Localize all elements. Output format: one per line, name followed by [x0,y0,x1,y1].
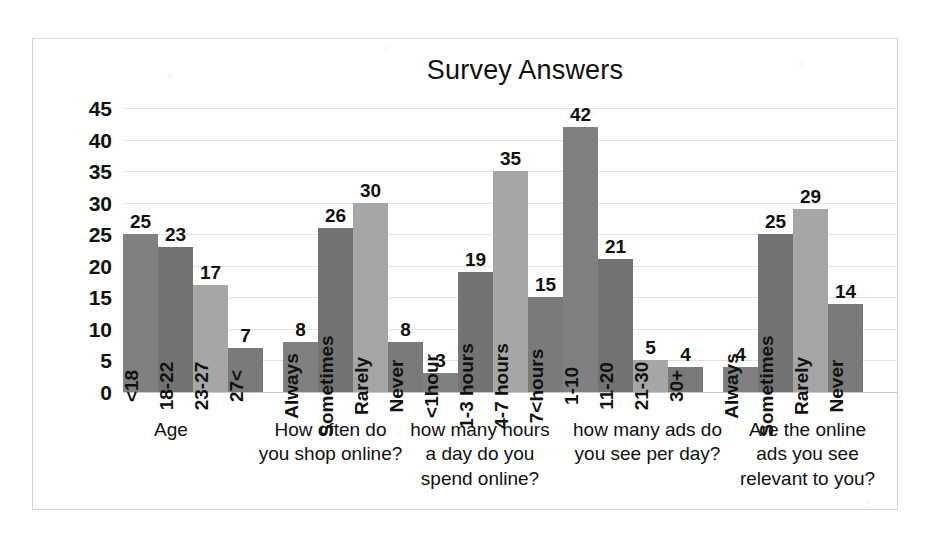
bar-value-label: 42 [570,105,591,124]
x-axis-group-label-line: a day do you [400,442,560,466]
x-axis-group-label-line: Age [96,418,246,442]
bar-category-label: 23-27 [192,362,211,411]
x-axis-group-label: how many hoursa day do youspend online? [400,418,560,491]
chart-title: Survey Answers [93,55,943,86]
y-axis-tick-label: 0 [100,382,112,403]
bar[interactable]: 521-30 [633,360,668,392]
bar[interactable]: 26Sometimes [318,228,353,392]
bar-value-label: 25 [130,212,151,231]
bar[interactable]: 727< [228,348,263,392]
bar[interactable]: 14Never [828,304,863,392]
bar-value-label: 5 [645,338,656,357]
y-axis-tick-label: 45 [89,98,112,119]
x-axis-group-label-line: ads you see [720,442,895,466]
bar-category-label: 1-10 [562,367,581,405]
bar-category-label: Rarely [792,357,811,415]
bar-category-label: 21-30 [632,362,651,411]
bar[interactable]: 157<hours [528,297,563,392]
bar-value-label: 26 [325,206,346,225]
bar-value-label: 21 [605,237,626,256]
x-axis-group-label: How often doyou shop online? [248,418,413,467]
bar-value-label: 15 [535,275,556,294]
bar-value-label: 30 [360,181,381,200]
bar[interactable]: 25Sometimes [758,234,793,392]
bar-group: 3<1hour191-3 hours354-7 hours157<hours [423,108,571,392]
y-axis-tick-label: 40 [89,129,112,150]
x-axis-group-label-line: how many hours [400,418,560,442]
y-axis-tick-label: 35 [89,161,112,182]
bar-group: 4Always25Sometimes29Rarely14Never [723,108,883,392]
bar[interactable]: 421-10 [563,127,598,392]
bar-category-label: Always [282,353,301,418]
y-axis-tick-label: 20 [89,255,112,276]
bar-value-label: 8 [295,320,306,339]
bar[interactable]: 29Rarely [793,209,828,392]
bar-value-label: 7 [240,326,251,345]
bar-value-label: 25 [765,212,786,231]
bar-value-label: 29 [800,187,821,206]
bar-value-label: 8 [400,320,411,339]
bar[interactable]: 354-7 hours [493,171,528,392]
x-axis-group-label-line: you see per day? [560,442,735,466]
bar-category-label: 1-3 hours [457,343,476,429]
bar-value-label: 4 [680,345,691,364]
bar[interactable]: 8Always [283,342,318,392]
bar-category-label: Rarely [352,357,371,415]
x-axis-group-label-line: how many ads do [560,418,735,442]
bar[interactable]: 430+ [668,367,703,392]
bar-category-label: 27< [227,370,246,402]
bar[interactable]: 8Never [388,342,423,392]
bar-value-label: 19 [465,250,486,269]
bar-value-label: 35 [500,149,521,168]
x-axis-group-label-line: Are the online [720,418,895,442]
y-axis-tick-label: 15 [89,287,112,308]
x-axis-group-label-line: you shop online? [248,442,413,466]
bar-value-label: 23 [165,225,186,244]
x-axis-group-label: Are the onlineads you seerelevant to you… [720,418,895,491]
bar-category-label: 4-7 hours [492,343,511,429]
bar[interactable]: 191-3 hours [458,272,493,392]
y-axis-tick-label: 5 [100,350,112,371]
bar-category-label: 11-20 [597,362,616,410]
bar-category-label: Never [827,360,846,413]
x-axis-group-label: how many ads doyou see per day? [560,418,735,467]
bar-category-label: <18 [122,370,141,402]
bar[interactable]: 30Rarely [353,203,388,392]
bar-category-label: Never [387,360,406,413]
bar[interactable]: 2111-20 [598,259,633,392]
y-axis-tick-label: 25 [89,224,112,245]
bar[interactable]: 25<18 [123,234,158,392]
bar-value-label: 14 [835,282,856,301]
bar-group: 421-102111-20521-30430+ [563,108,711,392]
bar-category-label: 18-22 [157,362,176,411]
plot-area: 25<182318-221723-27727<8Always26Sometime… [123,108,898,392]
bar[interactable]: 4Always [723,367,758,392]
bar-group: 8Always26Sometimes30Rarely8Never [283,108,431,392]
bar-category-label: 30+ [667,370,686,402]
bar[interactable]: 1723-27 [193,285,228,392]
bar[interactable]: 2318-22 [158,247,193,392]
y-axis-tick-label: 10 [89,318,112,339]
x-axis-group-label-line: spend online? [400,467,560,491]
x-axis-group-label-line: How often do [248,418,413,442]
x-axis-group-label-line: relevant to you? [720,467,895,491]
bar-value-label: 17 [200,263,221,282]
bar-group: 25<182318-221723-27727< [123,108,271,392]
y-axis: 454035302520151050 [38,108,112,392]
bar-category-label: Always [722,353,741,418]
bar-category-label: <1hour [422,354,441,418]
y-axis-tick-label: 30 [89,192,112,213]
x-axis-group-label: Age [96,418,246,442]
bar-category-label: 7<hours [527,349,546,423]
bar[interactable]: 3<1hour [423,373,458,392]
